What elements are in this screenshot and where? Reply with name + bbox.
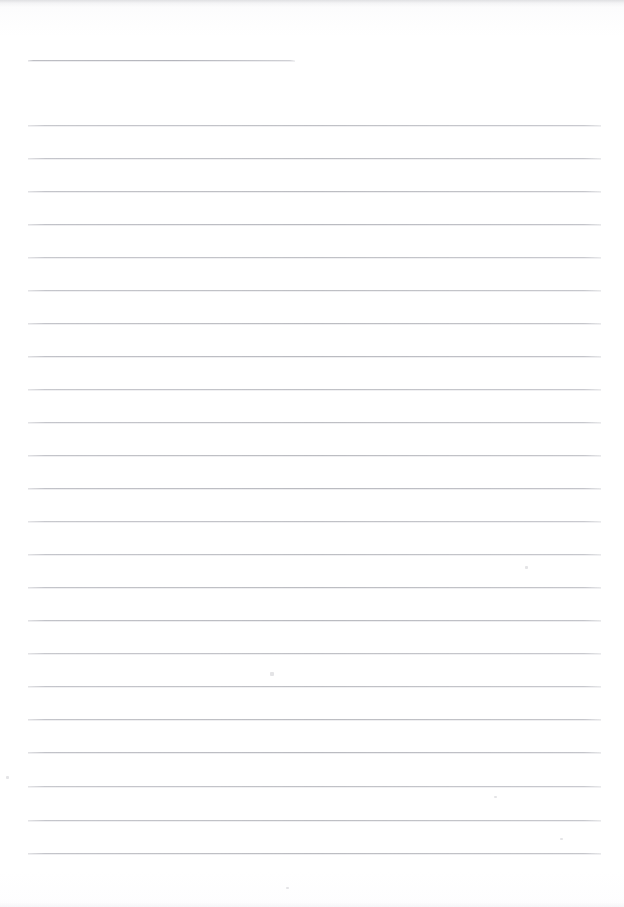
header-rule (28, 60, 295, 61)
ruled-line (28, 853, 601, 854)
scan-speck (286, 887, 289, 889)
ruled-line (28, 587, 601, 588)
scan-speck (525, 566, 528, 569)
ruled-line (28, 488, 601, 489)
scan-speck (270, 672, 274, 676)
ruled-line (28, 455, 601, 456)
ruled-line (28, 686, 601, 687)
ruled-line (28, 356, 601, 357)
ruled-line (28, 158, 601, 159)
scan-speck (494, 796, 497, 798)
scanned-page (0, 0, 624, 907)
ruled-line (28, 323, 601, 324)
ruled-line (28, 422, 601, 423)
ruled-line (28, 125, 601, 126)
ruled-line (28, 290, 601, 291)
scan-speck (6, 776, 9, 779)
ruled-line (28, 521, 601, 522)
ruled-line (28, 786, 601, 787)
ruled-line (28, 820, 601, 821)
ruled-line (28, 191, 601, 192)
ruled-line (28, 224, 601, 225)
ruled-line (28, 752, 601, 753)
scan-edge-artifact-top (0, 0, 624, 7)
ruled-line (28, 257, 601, 258)
ruled-line (28, 389, 601, 390)
ruled-line (28, 719, 601, 720)
ruled-line (28, 554, 601, 555)
ruled-line (28, 620, 601, 621)
paper-surface (0, 0, 624, 907)
scan-speck (560, 838, 563, 840)
ruled-line (28, 653, 601, 654)
scan-edge-artifact-bottom (0, 902, 624, 907)
